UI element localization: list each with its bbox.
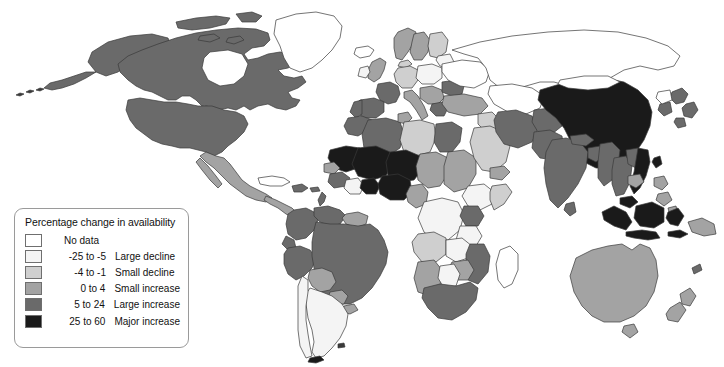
legend-row-large-increase: 5 to 24 Large increase <box>23 297 180 313</box>
country-south-africa <box>422 282 478 320</box>
legend-label-large-increase: Large increase <box>114 299 180 310</box>
legend-swatch-large-increase <box>25 298 42 311</box>
hispaniola <box>292 184 308 192</box>
legend-title: Percentage change in availability <box>25 216 180 228</box>
country-new-zealand <box>666 288 696 322</box>
country-madagascar <box>496 246 518 288</box>
legend-range-major-increase: 25 to 60 <box>48 316 105 327</box>
country-ghana <box>360 178 380 194</box>
country-cuba <box>258 176 290 186</box>
country-portugal <box>350 100 362 118</box>
aleutian-islands <box>16 88 44 96</box>
new-caledonia <box>692 264 702 274</box>
legend-swatch-large-decline <box>25 250 42 263</box>
country-papua-new-guinea <box>688 218 716 236</box>
country-brazil <box>312 222 388 304</box>
country-sri-lanka <box>564 202 576 216</box>
country-united-kingdom <box>368 58 386 82</box>
legend-swatch-major-increase <box>25 315 42 328</box>
legend-row-no-data: No data <box>23 232 180 248</box>
iceland <box>354 46 374 58</box>
legend-swatch-small-decline <box>25 266 42 279</box>
country-india <box>544 138 588 208</box>
country-south-korea <box>658 102 672 116</box>
legend-row-small-increase: 0 to 4 Small increase <box>23 281 180 297</box>
country-somalia <box>490 184 512 210</box>
tierra-del-fuego <box>308 356 324 363</box>
country-angola <box>412 232 446 262</box>
legend-range-large-increase: 5 to 24 <box>48 299 105 310</box>
region-asia <box>538 76 716 240</box>
legend-swatch-small-increase <box>25 282 42 295</box>
lesser-antilles <box>318 192 326 206</box>
world-map-figure: Percentage change in availability No dat… <box>0 0 724 367</box>
legend-range-large-decline: -25 to -5 <box>48 251 106 262</box>
legend-label-no-data: No data <box>64 235 99 246</box>
legend-row-small-decline: -4 to -1 Small decline <box>23 264 180 280</box>
country-tasmania <box>622 324 638 338</box>
country-chad <box>416 152 448 188</box>
legend-label-major-increase: Major increase <box>114 316 180 327</box>
country-taiwan <box>652 156 662 168</box>
legend-row-large-decline: -25 to -5 Large decline <box>23 248 180 264</box>
country-japan <box>670 88 698 128</box>
falkland-islands <box>338 343 345 348</box>
country-indonesia-sumatra <box>602 206 632 230</box>
country-poland <box>416 64 442 84</box>
country-balkans <box>420 86 444 104</box>
country-indonesia-borneo <box>634 202 664 228</box>
indonesia-east-islands <box>668 230 688 238</box>
country-indonesia-java <box>626 230 660 240</box>
map-legend: Percentage change in availability No dat… <box>14 208 189 348</box>
legend-swatch-no-data <box>25 234 42 247</box>
legend-range-small-increase: 0 to 4 <box>48 283 105 294</box>
country-yemen <box>490 166 510 180</box>
region-south-america <box>282 206 388 363</box>
legend-range-small-decline: -4 to -1 <box>48 267 106 278</box>
country-australia <box>570 244 658 322</box>
puerto-rico <box>310 187 320 192</box>
country-malaysia <box>620 196 638 208</box>
legend-row-major-increase: 25 to 60 Major increase <box>23 313 180 329</box>
legend-label-small-decline: Small decline <box>115 267 174 278</box>
legend-label-small-increase: Small increase <box>114 283 180 294</box>
country-germany <box>394 66 418 88</box>
country-egypt <box>434 122 462 152</box>
region-north-america <box>16 12 374 218</box>
country-alaska-peninsula <box>44 72 96 90</box>
legend-label-large-decline: Large decline <box>115 251 175 262</box>
country-finland <box>428 32 448 58</box>
country-turkey <box>442 94 488 116</box>
region-oceania <box>570 244 702 338</box>
